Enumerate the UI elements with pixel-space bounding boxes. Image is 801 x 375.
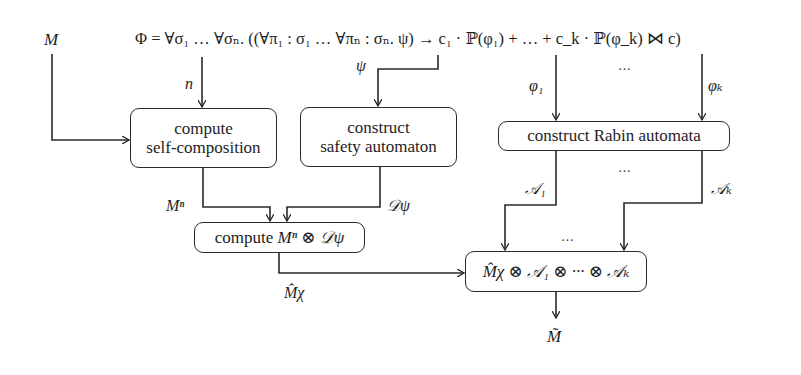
label-Mn: Mⁿ <box>166 198 184 214</box>
node-line: construct <box>320 118 437 137</box>
node-final-product: M̂χ ⊗ 𝒜₁ ⊗ ··· ⊗ 𝒜ₖ <box>465 251 647 292</box>
ellipsis-mid: … <box>618 160 631 175</box>
ellipsis-bottom: … <box>561 229 574 244</box>
model-label: M <box>44 31 58 48</box>
node-compute-product-safety: compute Mⁿ ⊗ 𝒟ψ <box>194 222 365 253</box>
property-formula: Φ = ∀σ₁ … ∀σₙ. ((∀π₁ : σ₁ … ∀πₙ : σₙ. ψ)… <box>135 31 681 48</box>
node-line: self-composition <box>146 138 260 157</box>
ellipsis-top: … <box>618 58 631 73</box>
node-compute-self-composition: compute self-composition <box>130 108 277 168</box>
edge-safety-to-product <box>287 167 380 221</box>
node-text: compute <box>215 228 278 247</box>
connector-layer <box>0 0 801 375</box>
edge-selfcomp-to-product <box>203 168 270 221</box>
edge-ak-to-final <box>624 151 702 250</box>
node-text: construct Rabin automata <box>527 126 701 145</box>
edge-a1-to-final <box>505 151 556 250</box>
label-Mchi: M̂χ <box>284 285 304 301</box>
label-psi: ψ <box>356 58 366 74</box>
label-Dpsi: 𝒟ψ <box>387 198 410 214</box>
node-expr: M̂χ ⊗ 𝒜₁ ⊗ ··· ⊗ 𝒜ₖ <box>483 262 630 281</box>
label-phik: φₖ <box>708 78 723 94</box>
edge-product-to-final <box>279 253 464 273</box>
output-label: M̃ <box>547 328 561 345</box>
node-line: safety automaton <box>320 137 437 156</box>
node-construct-safety-automaton: construct safety automaton <box>300 107 457 167</box>
label-A1: 𝒜₁ <box>525 181 546 197</box>
node-construct-rabin-automata: construct Rabin automata <box>498 121 730 151</box>
edge-psi-to-safety <box>378 55 438 106</box>
label-phi1: φ₁ <box>529 78 543 94</box>
node-line: compute <box>146 119 260 138</box>
label-Ak: 𝒜ₖ <box>711 181 732 197</box>
edge-model-to-selfcomp <box>52 54 129 140</box>
label-n: n <box>185 76 193 92</box>
node-expr: Mⁿ ⊗ 𝒟ψ <box>277 228 344 247</box>
